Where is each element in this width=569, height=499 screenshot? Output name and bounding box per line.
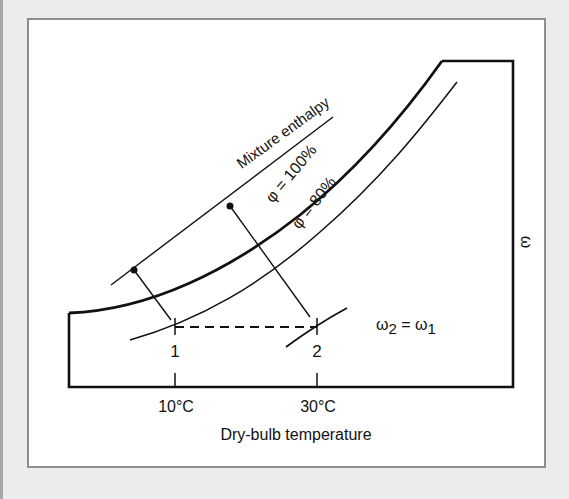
state-1-label: 1 [170, 342, 179, 361]
x-tick-label-30c: 30°C [300, 398, 336, 415]
enthalpy-point-2 [227, 203, 234, 210]
rh80-curve-label: φ = 80% [288, 173, 339, 231]
wet-bulb-line-1 [134, 270, 171, 320]
psychrometric-diagram: 1 2 10°C 30°C Dry-bulb temperature ω ω2 … [0, 0, 569, 499]
mixture-enthalpy-line [111, 117, 333, 285]
y-axis-label: ω [518, 236, 535, 249]
mixture-enthalpy-label: Mixture enthalpy [233, 93, 332, 172]
x-axis-label: Dry-bulb temperature [220, 426, 371, 443]
state-2-label: 2 [312, 342, 321, 361]
enthalpy-point-1 [131, 267, 138, 274]
x-tick-label-10c: 10°C [158, 398, 194, 415]
humidity-relation-label: ω2 = ω1 [376, 316, 436, 337]
